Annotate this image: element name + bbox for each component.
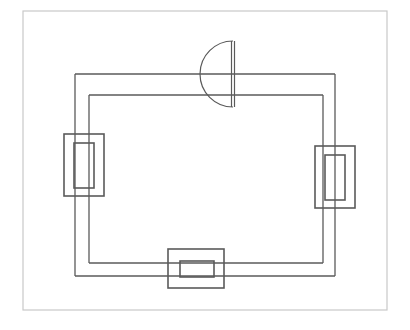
floor-plan-drawing (0, 0, 410, 330)
floor-plan-canvas (0, 0, 410, 330)
drawing-background (0, 0, 410, 330)
